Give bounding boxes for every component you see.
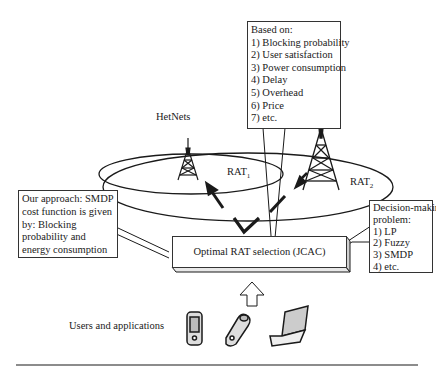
decision-line: 1) LP — [373, 226, 429, 238]
criteria-line: 5) Overhead — [251, 87, 337, 100]
up-arrow-icon — [240, 282, 264, 306]
criteria-box: Based on: 1) Blocking probability 2) Use… — [247, 21, 341, 129]
criteria-line: Based on: — [251, 24, 337, 37]
pda-device-icon — [187, 312, 202, 345]
decision-box: Decision-making problem: 1) LP 2) Fuzzy … — [369, 200, 433, 273]
decision-line: problem: — [373, 214, 429, 226]
approach-line: Our approach: SMDP — [22, 193, 114, 206]
rat1-base: RAT — [227, 166, 247, 177]
criteria-line: 3) Power consumption — [251, 62, 337, 75]
criteria-line: 6) Price — [251, 100, 337, 113]
rat1-sub: 1 — [247, 172, 251, 180]
criteria-line: 2) User satisfaction — [251, 49, 337, 62]
decision-line: 2) Fuzzy — [373, 237, 429, 249]
v-check-shape — [234, 218, 259, 232]
approach-line: probability and — [22, 231, 114, 244]
users-label: Users and applications — [69, 320, 164, 331]
flip-phone-icon — [226, 314, 250, 346]
approach-box: Our approach: SMDP cost function is give… — [18, 190, 118, 258]
hetnets-label: HetNets — [156, 111, 190, 122]
decision-line: 3) SMDP — [373, 249, 429, 261]
rat2-base: RAT — [350, 176, 370, 187]
criteria-line: 7) etc. — [251, 112, 337, 125]
selection-arrows — [207, 184, 285, 212]
tower-small-icon — [178, 138, 198, 180]
laptop-icon — [270, 306, 308, 346]
approach-line: cost function is given — [22, 206, 114, 219]
decision-line: Decision-making — [373, 202, 429, 214]
selection-block-label: Optimal RAT selection (JCAC) — [194, 246, 326, 259]
approach-line: by: Blocking — [22, 219, 114, 232]
selection-block: Optimal RAT selection (JCAC) — [172, 236, 347, 268]
approach-line: energy consumption — [22, 244, 114, 257]
decision-line: 4) etc. — [373, 261, 429, 273]
rat2-label: RAT2 — [350, 176, 373, 190]
rat1-label: RAT1 — [227, 166, 250, 180]
hetnet-rat-selection-diagram: Based on: 1) Blocking probability 2) Use… — [0, 0, 436, 373]
rat2-sub: 2 — [370, 182, 374, 190]
criteria-line: 4) Delay — [251, 74, 337, 87]
criteria-line: 1) Blocking probability — [251, 37, 337, 50]
